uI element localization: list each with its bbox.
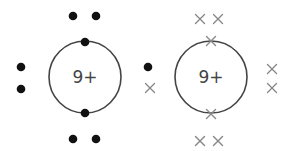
electron-dot-icon <box>92 135 101 144</box>
electron-dot-icon <box>81 38 90 47</box>
electron-cross-icon <box>207 110 216 119</box>
electron-cross-icon <box>268 65 277 74</box>
left-atom: 9+ <box>17 12 121 144</box>
electron-dot-icon <box>17 63 26 72</box>
electron-dot-icon <box>92 12 101 21</box>
electron-cross-icon <box>196 15 205 24</box>
electron-dot-icon <box>69 135 78 144</box>
nucleus-label: 9+ <box>72 67 97 87</box>
electron-cross-icon <box>196 137 205 146</box>
electron-cross-icon <box>146 84 155 93</box>
dot-and-cross-diagram: 9+ 9+ <box>0 0 294 151</box>
nucleus-label: 9+ <box>198 67 223 87</box>
electron-cross-icon <box>214 15 223 24</box>
shared-electron-pair <box>144 63 155 93</box>
electron-dot-icon <box>17 85 26 94</box>
electron-cross-icon <box>268 84 277 93</box>
right-atom: 9+ <box>175 15 277 146</box>
electron-dot-icon <box>69 12 78 21</box>
electron-cross-icon <box>214 137 223 146</box>
electron-dot-icon <box>144 63 153 72</box>
electron-dot-icon <box>81 109 90 118</box>
